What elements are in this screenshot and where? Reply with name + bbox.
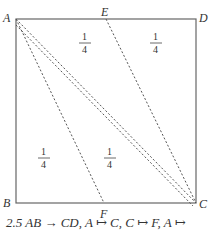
figure-caption: 2.5 AB → CD, A ↦ C, C ↦ F, A ↦: [6, 215, 186, 231]
fraction-bottom-left: 1 4: [38, 146, 50, 170]
svg-text:4: 4: [107, 159, 112, 170]
label-c: C: [199, 197, 208, 211]
svg-text:1: 1: [82, 31, 87, 42]
label-e: E: [100, 5, 109, 19]
dashed-line-ac: [16, 19, 196, 203]
label-d: D: [198, 11, 208, 25]
fraction-bottom-middle: 1 4: [104, 146, 116, 170]
dashed-line-ac-2: [16, 25, 193, 206]
dashed-line-ec: [106, 19, 196, 203]
label-b: B: [3, 196, 11, 210]
svg-text:4: 4: [82, 44, 87, 55]
svg-text:1: 1: [107, 146, 112, 157]
svg-text:4: 4: [153, 44, 158, 55]
svg-text:1: 1: [153, 31, 158, 42]
label-a: A: [2, 11, 11, 25]
dashed-line-af: [16, 19, 104, 203]
svg-text:4: 4: [41, 159, 46, 170]
fraction-top-left: 1 4: [79, 31, 91, 55]
fraction-top-right: 1 4: [150, 31, 162, 55]
svg-text:1: 1: [41, 146, 46, 157]
square-diagram: A D B C E F 1 4 1 4 1 4 1 4: [0, 0, 211, 232]
